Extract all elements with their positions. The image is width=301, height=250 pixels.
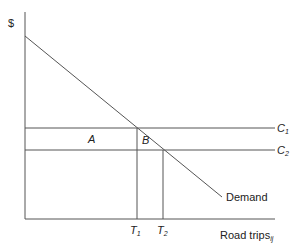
region-b-label: B [142,135,149,146]
c2-label: C2 [277,145,289,157]
t2-subscript: 2 [164,230,168,237]
c2-text: C [277,144,285,156]
c1-subscript: 1 [285,128,289,135]
demand-line [25,36,222,197]
t1-subscript: 1 [137,230,141,237]
x-axis-subscript: ij [270,235,273,242]
x-axis-label: Road tripsij [220,230,273,242]
y-axis-label: $ [8,18,14,29]
c2-subscript: 2 [285,150,289,157]
t2-label: T2 [157,225,168,237]
t2-text: T [157,224,164,236]
t1-text: T [130,224,137,236]
t1-label: T1 [130,225,141,237]
region-a-label: A [88,134,95,145]
x-axis-text: Road trips [220,229,270,241]
c1-label: C1 [277,123,289,135]
demand-label: Demand [226,192,268,203]
diagram-canvas [0,0,301,250]
c1-text: C [277,122,285,134]
